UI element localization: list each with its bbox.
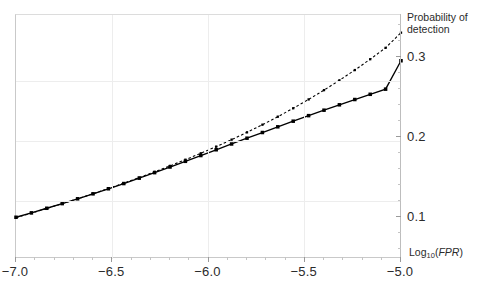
x-minor-tick (34, 257, 35, 260)
x-axis-title-variable: FPR (438, 246, 459, 258)
gridline-horizontal-y-0-2 (16, 141, 401, 142)
x-minor-tick (92, 257, 93, 260)
y-minor-tick (398, 184, 401, 185)
data-point-marker (322, 108, 326, 112)
data-point-marker (354, 69, 356, 71)
y-minor-tick (398, 248, 401, 249)
data-point-marker (307, 98, 309, 100)
data-point-marker (246, 131, 248, 133)
data-point-marker (45, 207, 49, 211)
x-minor-tick (131, 257, 132, 260)
plot-area (15, 14, 400, 258)
data-point-marker (199, 154, 203, 158)
y-axis-title-line2: detection (407, 23, 450, 35)
y-tick-1 (396, 136, 401, 137)
y-minor-tick (398, 168, 401, 169)
y-minor-tick (398, 72, 401, 73)
data-point-marker (353, 98, 357, 102)
data-point-marker (261, 131, 265, 135)
y-tick-0 (396, 216, 401, 217)
data-point-marker (277, 116, 279, 118)
data-point-marker (122, 182, 126, 186)
chart-figure: −7.0−6.5−6.0−5.5−5.0 0.10.20.3 Probabili… (0, 0, 483, 298)
data-point-marker (323, 89, 325, 91)
x-minor-tick (188, 257, 189, 260)
gridline-vertical-x-5-5 (304, 15, 305, 259)
x-minor-tick (323, 257, 324, 260)
x-tick-label-0: −7.0 (2, 264, 28, 279)
data-point-marker (384, 47, 386, 49)
x-minor-tick (73, 257, 74, 260)
x-minor-tick (381, 257, 382, 260)
data-point-marker (245, 136, 249, 140)
x-minor-tick (362, 257, 363, 260)
gridline-vertical-x-6-0 (208, 15, 209, 259)
y-axis-title-line1: Probability of (407, 11, 468, 23)
y-minor-tick (398, 152, 401, 153)
data-point-marker (307, 114, 311, 118)
data-point-marker (30, 211, 34, 215)
data-point-marker (60, 202, 64, 206)
x-axis-title: Log10(FPR) (409, 246, 463, 260)
data-point-marker (14, 216, 18, 220)
x-axis-title-log: Log (409, 246, 427, 258)
y-minor-tick (398, 232, 401, 233)
x-tick-4 (400, 257, 401, 262)
y-minor-tick (398, 88, 401, 89)
data-point-marker (153, 171, 157, 175)
data-point-marker (338, 103, 342, 107)
x-axis-title-subscript: 10 (427, 251, 435, 260)
data-point-marker (261, 124, 263, 126)
x-axis-title-paren-close: ) (459, 246, 463, 258)
x-minor-tick (265, 257, 266, 260)
data-point-marker (91, 192, 95, 196)
x-tick-3 (304, 257, 305, 262)
x-minor-tick (169, 257, 170, 260)
data-point-marker (230, 142, 234, 146)
y-minor-tick (398, 24, 401, 25)
data-point-marker (168, 165, 172, 169)
gridline-horizontal-y-0-3 (16, 81, 401, 82)
y-minor-tick (398, 120, 401, 121)
x-tick-label-2: −6.0 (194, 264, 220, 279)
data-point-marker (137, 176, 141, 180)
data-point-marker (368, 93, 372, 97)
y-tick-label-1: 0.2 (407, 129, 426, 144)
data-point-marker (384, 87, 388, 91)
y-tick-2 (396, 56, 401, 57)
data-point-marker (214, 148, 218, 152)
y-tick-label-2: 0.3 (407, 48, 426, 63)
data-point-marker (292, 107, 294, 109)
data-point-marker (291, 119, 295, 123)
data-point-marker (369, 58, 371, 60)
gridline-horizontal-y-0-1 (16, 201, 401, 202)
x-tick-1 (111, 257, 112, 262)
x-minor-tick (342, 257, 343, 260)
y-tick-label-0: 0.1 (407, 209, 426, 224)
x-minor-tick (150, 257, 151, 260)
x-minor-tick (285, 257, 286, 260)
x-tick-2 (208, 257, 209, 262)
gridline-vertical-x-6-5 (112, 15, 113, 259)
data-point-marker (107, 187, 111, 191)
x-tick-0 (15, 257, 16, 262)
data-point-marker (276, 125, 280, 129)
x-minor-tick (54, 257, 55, 260)
y-minor-tick (398, 200, 401, 201)
y-minor-tick (398, 104, 401, 105)
data-point-marker (184, 160, 188, 164)
y-axis-title: Probability ofdetection (407, 12, 483, 35)
x-minor-tick (246, 257, 247, 260)
x-minor-tick (227, 257, 228, 260)
x-tick-label-1: −6.5 (98, 264, 124, 279)
x-tick-label-4: −5.0 (387, 264, 413, 279)
data-point-marker (215, 145, 217, 147)
x-tick-label-3: −5.5 (291, 264, 317, 279)
y-minor-tick (398, 40, 401, 41)
